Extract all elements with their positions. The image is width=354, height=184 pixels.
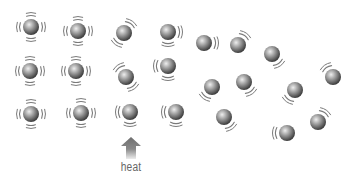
gas-particle	[230, 31, 251, 53]
particle-ball	[160, 58, 176, 74]
gas-particle	[320, 63, 341, 85]
solid-particle	[62, 57, 91, 86]
particle-ball	[68, 63, 84, 79]
particle-ball	[216, 109, 232, 125]
particle-ball	[118, 69, 134, 85]
solid-particle	[16, 57, 45, 86]
solid-stage	[16, 13, 96, 129]
liquid-particle	[111, 19, 136, 48]
particle-ball	[204, 79, 220, 95]
motion-lines-icon	[214, 37, 218, 49]
gas-particle	[216, 109, 237, 131]
particle-ball	[122, 104, 138, 120]
liquid-stage	[111, 19, 184, 127]
gas-particle	[196, 35, 218, 51]
particle-ball	[70, 23, 86, 39]
gas-particle	[273, 125, 295, 141]
liquid-particle	[113, 63, 138, 92]
particle-ball	[23, 19, 39, 35]
liquid-particle	[162, 104, 184, 126]
particle-ball	[23, 106, 39, 122]
particle-ball	[160, 24, 176, 40]
gas-particle	[310, 108, 331, 130]
particle-ball	[196, 35, 212, 51]
liquid-particle	[116, 104, 138, 126]
states-of-matter-diagram	[0, 0, 354, 184]
particle-ball	[168, 104, 184, 120]
particle-ball	[325, 69, 341, 85]
particle-ball	[264, 46, 280, 62]
gas-particle	[282, 82, 303, 104]
gas-particle	[199, 79, 220, 101]
solid-particle	[67, 99, 96, 128]
liquid-particle	[154, 58, 176, 80]
particle-ball	[116, 25, 132, 41]
heat-label: heat	[114, 160, 148, 174]
motion-lines-icon	[273, 127, 277, 139]
particle-ball	[287, 82, 303, 98]
particle-ball	[230, 37, 246, 53]
particle-ball	[22, 63, 38, 79]
gas-particle	[264, 46, 285, 68]
heat-arrow-icon	[121, 137, 141, 159]
particle-ball	[310, 114, 326, 130]
particle-ball	[73, 105, 89, 121]
solid-particle	[17, 13, 46, 42]
liquid-particle	[160, 24, 182, 46]
particle-ball	[236, 74, 252, 90]
gas-stage	[196, 31, 341, 141]
solid-particle	[17, 100, 46, 129]
solid-particle	[64, 17, 93, 46]
particle-ball	[279, 125, 295, 141]
gas-particle	[236, 74, 257, 96]
